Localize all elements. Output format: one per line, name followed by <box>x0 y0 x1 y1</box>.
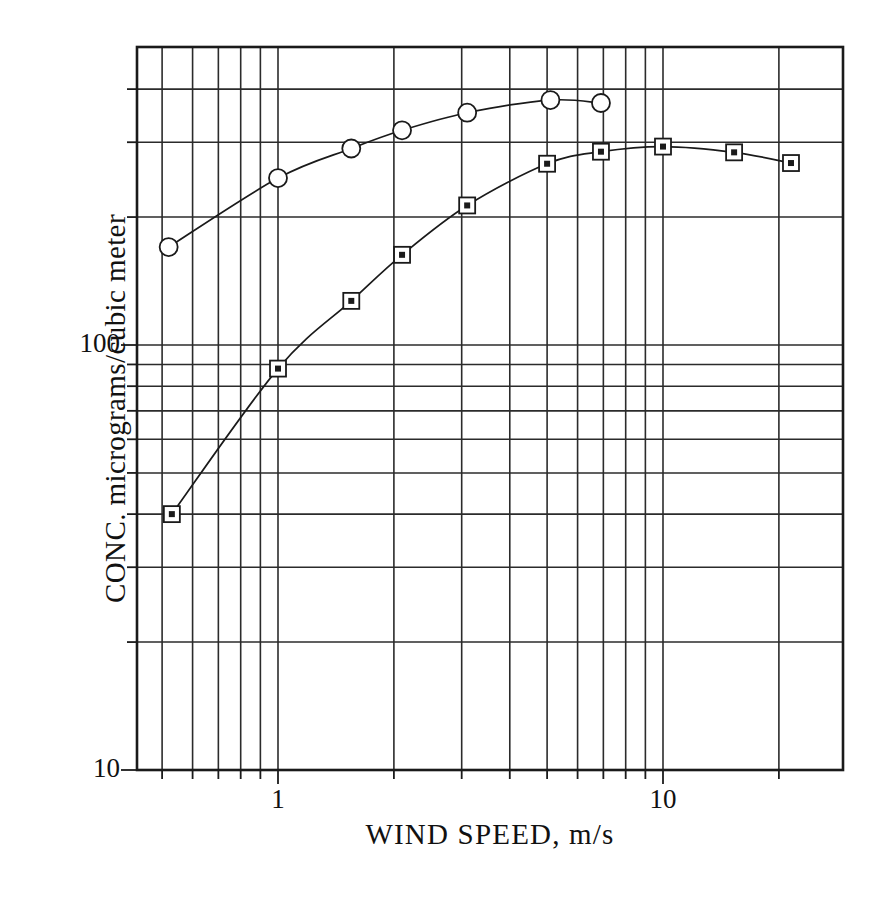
series-line <box>172 147 791 515</box>
data-point-circle <box>592 94 610 112</box>
data-point-square-center <box>275 366 281 372</box>
axis-ticks <box>121 89 779 784</box>
series-square <box>164 139 799 523</box>
series-circle <box>160 91 610 256</box>
data-point-circle <box>269 169 287 187</box>
data-point-circle <box>342 139 360 157</box>
y-axis-title: CONC. micrograms/cubic meter <box>99 59 132 759</box>
x-tick-label-1: 1 <box>248 784 308 815</box>
figure-container: CONC. micrograms/cubic meter WIND SPEED,… <box>0 0 884 900</box>
data-point-square-center <box>464 202 470 208</box>
y-tick-label-100: 100 <box>34 328 120 359</box>
data-point-square-center <box>544 161 550 167</box>
y-tick-label-10: 10 <box>34 753 120 784</box>
data-point-square-center <box>788 160 794 166</box>
data-point-square-center <box>348 298 354 304</box>
data-point-square-center <box>169 511 175 517</box>
data-series-layer <box>160 91 799 522</box>
x-axis-title: WIND SPEED, m/s <box>137 818 843 851</box>
data-point-circle <box>541 91 559 109</box>
x-tick-label-10: 10 <box>633 784 693 815</box>
data-point-square-center <box>731 149 737 155</box>
data-point-square-center <box>660 144 666 150</box>
data-point-circle <box>393 121 411 139</box>
data-point-circle <box>458 104 476 122</box>
plot-area <box>0 0 884 900</box>
series-line <box>169 100 601 247</box>
data-point-square-center <box>399 252 405 258</box>
data-point-square-center <box>598 149 604 155</box>
data-point-circle <box>160 238 178 256</box>
